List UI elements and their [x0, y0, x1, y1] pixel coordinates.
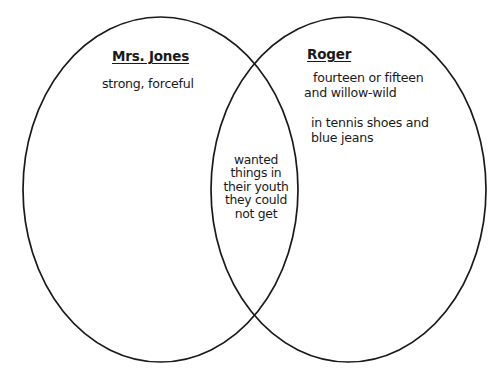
venn-right-trait-1-line-1: fourteen or fifteen	[304, 70, 423, 85]
venn-intersection-line-4: they could	[214, 193, 298, 206]
venn-right-trait-2: in tennis shoes andblue jeans	[311, 115, 429, 145]
venn-intersection-line-5: not get	[214, 207, 298, 220]
venn-intersection-line-2: things in	[214, 166, 298, 179]
venn-right-trait-1: fourteen or fifteenand willow-wild	[304, 70, 423, 100]
venn-intersection-text: wantedthings intheir youththey couldnot …	[214, 153, 298, 220]
venn-intersection-line-1: wanted	[214, 153, 298, 166]
venn-text-layer: Mrs. Jones strong, forceful Roger fourte…	[0, 0, 502, 384]
venn-intersection-line-3: their youth	[214, 180, 298, 193]
venn-diagram-canvas: Mrs. Jones strong, forceful Roger fourte…	[0, 0, 502, 384]
venn-label-right: Roger	[307, 46, 351, 62]
venn-left-trait-1: strong, forceful	[102, 76, 194, 91]
venn-right-trait-1-line-2: and willow-wild	[304, 85, 397, 100]
venn-right-trait-2-line-2: blue jeans	[311, 130, 373, 145]
venn-right-trait-2-line-1: in tennis shoes and	[311, 115, 429, 130]
venn-label-left: Mrs. Jones	[112, 48, 189, 64]
